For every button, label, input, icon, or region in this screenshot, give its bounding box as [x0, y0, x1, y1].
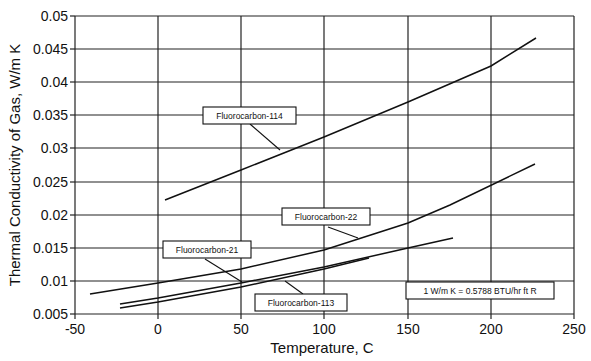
x-tick: 50 — [233, 321, 249, 337]
y-tick: 0.02 — [41, 207, 68, 223]
callout-conversion: 1 W/m K = 0.5788 BTU/hr ft R — [406, 282, 554, 299]
y-tick: 0.05 — [41, 8, 68, 24]
curves — [90, 38, 536, 308]
y-tick-labels: 0.05 0.045 0.04 0.035 0.03 0.025 0.02 0.… — [33, 8, 68, 322]
callout-fc22: Fluorocarbon-22 — [282, 208, 370, 225]
x-tick: 0 — [154, 321, 162, 337]
y-tick: 0.005 — [33, 306, 68, 322]
y-tick: 0.01 — [41, 273, 68, 289]
label-fc114: Fluorocarbon-114 — [216, 111, 283, 121]
y-tick: 0.035 — [33, 107, 68, 123]
x-axis-label: Temperature, C — [270, 339, 374, 356]
x-tick: 100 — [312, 321, 336, 337]
x-tick: 200 — [479, 321, 503, 337]
y-tick: 0.03 — [41, 140, 68, 156]
series-fc22 — [90, 164, 535, 294]
label-fc113: Fluorocarbon-113 — [268, 298, 335, 308]
callout-fc21: Fluorocarbon-21 — [163, 241, 251, 258]
y-tick: 0.04 — [41, 74, 68, 90]
label-fc22: Fluorocarbon-22 — [295, 212, 358, 222]
conversion-note: 1 W/m K = 0.5788 BTU/hr ft R — [423, 286, 536, 296]
x-tick: 150 — [396, 321, 420, 337]
x-tick: -50 — [65, 321, 85, 337]
callout-fc114: Fluorocarbon-114 — [203, 107, 296, 124]
y-tick: 0.025 — [33, 174, 68, 190]
x-tick: 250 — [562, 321, 586, 337]
y-axis-label: Thermal Conductivity of Gas, W/m K — [6, 44, 23, 287]
callout-fc113: Fluorocarbon-113 — [255, 294, 347, 311]
x-tick-labels: -50 0 50 100 150 200 250 — [65, 321, 586, 337]
y-tick: 0.015 — [33, 240, 68, 256]
label-fc21: Fluorocarbon-21 — [176, 245, 239, 255]
y-tick: 0.045 — [33, 41, 68, 57]
chart: 0.05 0.045 0.04 0.035 0.03 0.025 0.02 0.… — [0, 0, 591, 361]
